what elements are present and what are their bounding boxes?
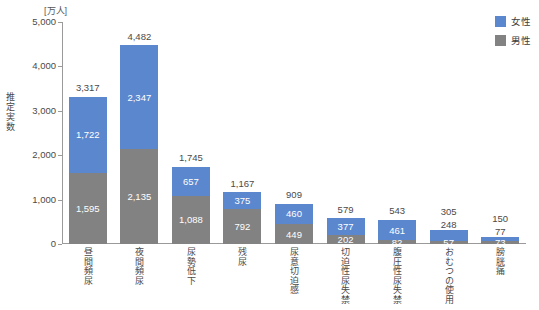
- bar-segment-female[interactable]: [172, 167, 210, 196]
- bar-total-label: 909: [275, 190, 313, 200]
- x-axis-label-7: おむつの使用: [444, 247, 453, 304]
- bar-group[interactable]: 3757921,167: [223, 192, 261, 244]
- bar-segment-female[interactable]: [430, 230, 468, 241]
- bar-group[interactable]: 460449909: [275, 204, 313, 244]
- x-axis-label-5: 切迫性尿失禁: [341, 247, 350, 304]
- x-axis-label-3: 残尿: [237, 247, 246, 266]
- bar-segment-male[interactable]: [481, 241, 519, 244]
- y-tick-label: 5,000: [22, 17, 56, 27]
- bar-segment-male[interactable]: [275, 224, 313, 244]
- x-axis-label-8: 膀胱痛: [495, 247, 504, 276]
- y-tick-mark: [58, 244, 62, 245]
- bar-total-label: 4,482: [120, 32, 158, 42]
- x-axis-label-4: 尿意切迫感: [289, 247, 298, 295]
- bar-segment-male[interactable]: [120, 149, 158, 244]
- bar-segment-male[interactable]: [327, 235, 365, 244]
- bar-segment-male[interactable]: [223, 209, 261, 244]
- y-tick-label: 3,000: [22, 106, 56, 116]
- bar-total-label: 579: [327, 205, 365, 215]
- bars-layer: 1,7221,5953,3172,3472,1354,4826571,0881,…: [62, 22, 526, 244]
- plot-area: 5,0004,0003,0002,0001,0000 1,7221,5953,3…: [62, 22, 526, 244]
- bar-total-label: 150: [481, 214, 519, 224]
- bar-value-label-female: 248: [430, 220, 468, 230]
- bar-total-label: 543: [378, 206, 416, 216]
- bar-group[interactable]: 7773150: [481, 237, 519, 244]
- bar-chart: [万人] 女性 男性 推定実数 5,0004,0003,0002,0001,00…: [0, 0, 539, 310]
- y-tick-label: 2,000: [22, 150, 56, 160]
- x-axis-category-labels: 昼間頻尿夜間頻尿尿勢低下残尿尿意切迫感切迫性尿失禁腹圧性尿失禁おむつの使用膀胱痛: [62, 247, 526, 309]
- x-axis-label-0: 昼間頻尿: [83, 247, 92, 285]
- bar-value-label-female: 77: [481, 227, 519, 237]
- bar-segment-female[interactable]: [327, 218, 365, 235]
- bar-total-label: 3,317: [69, 83, 107, 93]
- bar-segment-female[interactable]: [120, 45, 158, 149]
- y-tick-label: 1,000: [22, 195, 56, 205]
- bar-group[interactable]: 1,7221,5953,317: [69, 97, 107, 244]
- x-axis-label-1: 夜間頻尿: [134, 247, 143, 285]
- bar-total-label: 305: [430, 207, 468, 217]
- bar-total-label: 1,167: [223, 179, 261, 189]
- bar-total-label: 1,745: [172, 153, 210, 163]
- bar-segment-male[interactable]: [378, 240, 416, 244]
- bar-segment-male[interactable]: [172, 196, 210, 244]
- bar-group[interactable]: 377202579: [327, 218, 365, 244]
- bar-group[interactable]: 46182543: [378, 220, 416, 244]
- bar-segment-female[interactable]: [223, 192, 261, 209]
- bar-segment-male[interactable]: [69, 173, 107, 244]
- bar-segment-male[interactable]: [430, 241, 468, 244]
- bar-segment-female[interactable]: [69, 97, 107, 173]
- y-axis-title: 推定実数: [4, 92, 17, 132]
- bar-group[interactable]: 2,3472,1354,482: [120, 45, 158, 244]
- bar-group[interactable]: 24857305: [430, 230, 468, 244]
- bar-segment-female[interactable]: [378, 220, 416, 240]
- y-tick-label: 4,000: [22, 61, 56, 71]
- x-axis-label-2: 尿勢低下: [186, 247, 195, 285]
- bar-segment-female[interactable]: [481, 237, 519, 240]
- y-tick-label: 0: [22, 239, 56, 249]
- bar-group[interactable]: 6571,0881,745: [172, 167, 210, 244]
- bar-segment-female[interactable]: [275, 204, 313, 224]
- x-axis-label-6: 腹圧性尿失禁: [392, 247, 401, 304]
